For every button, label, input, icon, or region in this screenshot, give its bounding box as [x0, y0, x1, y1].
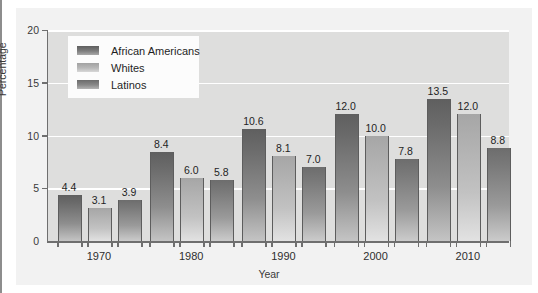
bar	[88, 208, 112, 241]
x-tick-mark	[81, 241, 83, 247]
bar	[210, 180, 234, 241]
x-tick-mark	[111, 241, 113, 247]
bar	[272, 156, 296, 241]
x-tick-mark	[117, 241, 119, 247]
x-tick-mark	[486, 241, 488, 247]
bar	[150, 152, 174, 241]
x-tick-label: 1990	[253, 250, 313, 262]
bar-value-label: 5.8	[203, 167, 239, 178]
gridline	[48, 30, 509, 32]
bar	[302, 167, 326, 241]
bar-value-label: 7.0	[295, 154, 331, 165]
legend-swatch	[77, 80, 99, 89]
bar	[58, 195, 82, 241]
y-tick-label: 10	[17, 131, 39, 142]
x-tick-mark	[233, 241, 235, 247]
bar-value-label: 8.8	[480, 135, 516, 146]
bar-value-label: 10.6	[235, 116, 271, 127]
x-tick-mark	[510, 241, 512, 247]
x-tick-mark	[480, 241, 482, 247]
bar	[180, 178, 204, 241]
legend-label: Whites	[111, 61, 145, 75]
x-tick-mark	[149, 241, 151, 247]
bar-value-label: 3.9	[111, 187, 147, 198]
x-tick-mark	[173, 241, 175, 247]
bar-value-label: 12.0	[450, 101, 486, 112]
legend: African AmericansWhitesLatinos	[68, 36, 199, 98]
x-tick-mark	[334, 241, 336, 247]
y-tick-label: 0	[17, 236, 39, 247]
x-tick-mark	[295, 241, 297, 247]
x-tick-label: 1980	[161, 250, 221, 262]
bar-value-label: 13.5	[420, 86, 456, 97]
bar-value-label: 4.4	[51, 182, 87, 193]
x-tick-mark	[57, 241, 59, 247]
x-tick-mark	[456, 241, 458, 247]
y-tick-label: 15	[17, 78, 39, 89]
x-tick-mark	[203, 241, 205, 247]
legend-label: African Americans	[111, 44, 200, 58]
x-tick-mark	[426, 241, 428, 247]
x-tick-mark	[265, 241, 267, 247]
x-tick-mark	[325, 241, 327, 247]
bar	[118, 200, 142, 241]
bar	[487, 148, 511, 241]
bar-value-label: 8.1	[265, 143, 301, 154]
bar	[242, 129, 266, 241]
y-tick-label: 5	[17, 183, 39, 194]
x-tick-mark	[394, 241, 396, 247]
bar-value-label: 7.8	[388, 146, 424, 157]
x-tick-mark	[301, 241, 303, 247]
x-tick-mark	[179, 241, 181, 247]
legend-label: Latinos	[111, 78, 146, 92]
bar-value-label: 10.0	[358, 123, 394, 134]
x-tick-mark	[418, 241, 420, 247]
x-tick-label: 2010	[438, 250, 498, 262]
x-tick-mark	[364, 241, 366, 247]
x-tick-mark	[388, 241, 390, 247]
legend-swatch	[77, 46, 99, 55]
bar	[395, 159, 419, 241]
x-tick-mark	[358, 241, 360, 247]
y-tick-label: 20	[17, 25, 39, 36]
x-tick-mark	[87, 241, 89, 247]
bar-value-label: 8.4	[143, 139, 179, 150]
bar	[335, 114, 359, 241]
y-axis-title: Percentage	[0, 42, 8, 96]
bar-value-label: 12.0	[328, 101, 364, 112]
chart-screenshot: Percentage 05101520 4.43.13.98.46.05.810…	[0, 0, 538, 293]
x-tick-mark	[141, 241, 143, 247]
x-tick-label: 2000	[346, 250, 406, 262]
x-tick-mark	[450, 241, 452, 247]
x-tick-mark	[271, 241, 273, 247]
x-axis-title: Year	[0, 268, 538, 280]
bar	[365, 136, 389, 242]
x-tick-label: 1970	[69, 250, 129, 262]
x-tick-mark	[209, 241, 211, 247]
legend-swatch	[77, 63, 99, 72]
bar	[427, 99, 451, 241]
bar	[457, 114, 481, 241]
x-tick-mark	[241, 241, 243, 247]
